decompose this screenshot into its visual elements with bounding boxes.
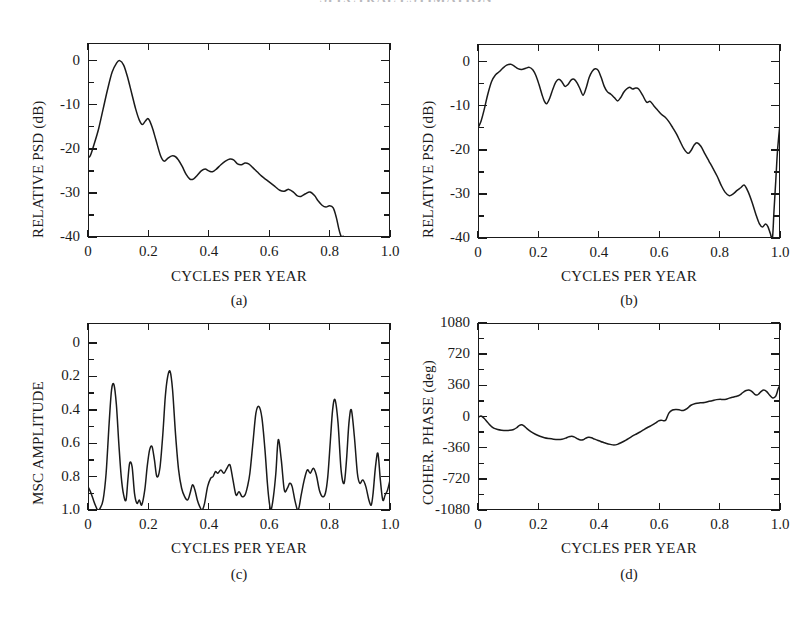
x-axis-title-d: CYCLES PER YEAR — [479, 540, 779, 557]
figure-container: 00.20.40.60.81.00-10-20-30-40RELATIVE PS… — [0, 0, 812, 630]
plot-curve-d — [0, 0, 812, 630]
y-axis-title-d: COHER. PHASE (deg) — [420, 360, 437, 505]
panel-d: 00.20.40.60.81.010807203600-360-720-1080… — [0, 0, 812, 630]
panel-caption-d: (d) — [569, 566, 689, 583]
